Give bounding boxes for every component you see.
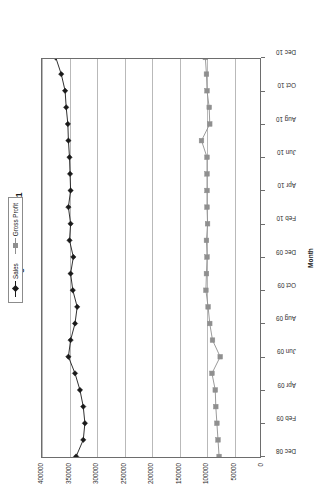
x-axis-tick-mark — [261, 257, 265, 258]
legend-entry[interactable]: Sales — [12, 263, 19, 297]
plot-inner — [42, 59, 260, 457]
data-point — [205, 188, 210, 193]
series-sales — [53, 59, 88, 457]
legend-label: Gross Profit — [12, 203, 19, 236]
x-axis-tick-mark — [261, 91, 265, 92]
x-axis-tick-mark — [261, 357, 265, 358]
data-point — [204, 72, 209, 77]
data-point — [210, 371, 215, 376]
legend-key-icon — [12, 281, 19, 297]
data-point — [213, 388, 218, 393]
legend-key-icon — [12, 238, 19, 254]
data-point — [68, 337, 73, 342]
x-axis-tick-label: Oct 10 — [277, 82, 296, 89]
x-axis-tick-mark — [261, 457, 265, 458]
y-axis-tick-label: 150000 — [175, 463, 182, 484]
x-axis-tick-label: Oct 09 — [277, 282, 296, 289]
data-point — [65, 121, 70, 126]
data-point — [72, 371, 77, 376]
data-point — [216, 438, 221, 443]
x-axis-tick-mark — [261, 58, 265, 59]
data-point — [59, 71, 64, 76]
chart-legend: SalesGross Profit — [8, 197, 23, 303]
x-axis-tick-label: Jun 09 — [277, 348, 296, 355]
x-axis-tick-mark — [261, 423, 265, 424]
data-point — [75, 304, 80, 309]
data-point — [205, 88, 210, 93]
y-axis-tick-label: 250000 — [120, 463, 127, 484]
y-axis-tick-label: 400000 — [37, 463, 44, 484]
data-point — [81, 437, 86, 442]
series-line — [202, 59, 221, 457]
data-point — [81, 404, 86, 409]
y-axis-tick-label: 50000 — [230, 463, 237, 481]
data-point — [210, 338, 215, 343]
data-point — [206, 305, 211, 310]
y-axis-tick-label: 200000 — [147, 463, 154, 484]
y-axis-tick-labels: 0500001000001500002000002500003000003500… — [41, 460, 261, 491]
data-point — [68, 188, 73, 193]
data-point — [68, 271, 73, 276]
x-axis-tick-label: Dec 10 — [276, 49, 296, 56]
y-axis-tick-label: 350000 — [65, 463, 72, 484]
data-point — [203, 59, 208, 60]
x-axis-tick-label: Aug 09 — [276, 315, 296, 322]
data-point — [199, 138, 204, 143]
data-point — [73, 454, 78, 457]
data-point — [204, 288, 209, 293]
data-point — [204, 238, 209, 243]
x-axis-tick-label: Dec 09 — [276, 249, 296, 256]
data-point — [66, 204, 71, 209]
y-axis-tick-label: 300000 — [92, 463, 99, 484]
x-axis-tick-label: Apr 10 — [277, 182, 296, 189]
data-point — [53, 59, 58, 60]
data-point — [67, 171, 72, 176]
x-axis-tick-label: Jun 10 — [277, 149, 296, 156]
x-axis-tick-label: Apr 09 — [277, 382, 296, 389]
y-axis-tick-label: 100000 — [202, 463, 209, 484]
x-axis-tick-label: Feb 10 — [276, 215, 296, 222]
legend-entry[interactable]: Gross Profit — [12, 203, 19, 254]
plot-area — [41, 58, 261, 458]
series-line — [56, 59, 85, 457]
data-point — [207, 105, 212, 110]
series-layer — [42, 59, 260, 457]
x-axis-title: Month — [307, 58, 314, 458]
data-point — [215, 421, 220, 426]
data-point — [204, 271, 209, 276]
data-point — [70, 288, 75, 293]
x-axis-tick-label: Feb 09 — [276, 415, 296, 422]
x-axis-tick-label: Dec 08 — [276, 448, 296, 455]
data-point — [82, 421, 87, 426]
data-point — [66, 138, 71, 143]
data-point — [71, 254, 76, 259]
data-point — [214, 404, 219, 409]
x-axis-tick-mark — [261, 124, 265, 125]
chart-figure: Trailing P &L Data - Part 1 SalesGross P… — [0, 0, 335, 491]
data-point — [64, 105, 69, 110]
data-point — [62, 88, 67, 93]
x-axis-tick-mark — [261, 224, 265, 225]
x-axis-tick-mark — [261, 324, 265, 325]
data-point — [218, 354, 223, 359]
x-axis-tick-label: Aug 10 — [276, 116, 296, 123]
data-point — [67, 155, 72, 160]
data-point — [77, 387, 82, 392]
y-axis-tick-label: 0 — [257, 463, 264, 467]
data-point — [66, 354, 71, 359]
legend-label: Sales — [12, 263, 19, 279]
data-point — [205, 221, 210, 226]
data-point — [207, 122, 212, 127]
data-point — [205, 255, 210, 260]
x-axis-tick-mark — [261, 290, 265, 291]
rotated-figure-wrapper: Trailing P &L Data - Part 1 SalesGross P… — [0, 0, 335, 491]
data-point — [67, 238, 72, 243]
data-point — [68, 221, 73, 226]
data-point — [72, 321, 77, 326]
x-axis-tick-labels: Dec 08Feb 09Apr 09Jun 09Aug 09Oct 09Dec … — [266, 58, 300, 458]
data-point — [207, 321, 212, 326]
screenshot-canvas: Trailing P &L Data - Part 1 SalesGross P… — [0, 0, 335, 491]
x-axis-tick-mark — [261, 157, 265, 158]
data-point — [205, 205, 210, 210]
series-gross-profit — [199, 59, 222, 457]
